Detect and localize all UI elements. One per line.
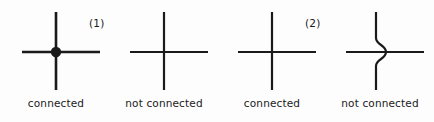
wire-junction-figure: (1) connected not connected (2)	[0, 0, 434, 122]
cross-with-dot-icon	[2, 4, 110, 94]
symbol-caption: connected	[218, 97, 326, 110]
symbol-caption: connected	[2, 97, 110, 110]
symbol-cell-not-connected-jog: not connected	[326, 0, 434, 122]
symbol-cell-not-connected-plain: not connected	[110, 0, 218, 122]
plain-cross-icon	[218, 4, 326, 94]
symbol-caption: not connected	[326, 97, 434, 110]
plain-cross-icon	[110, 4, 218, 94]
cross-with-jog-icon	[326, 4, 434, 94]
symbol-caption: not connected	[110, 97, 218, 110]
symbol-cell-connected-dot: connected	[2, 0, 110, 122]
symbol-cell-connected-plain: connected	[218, 0, 326, 122]
